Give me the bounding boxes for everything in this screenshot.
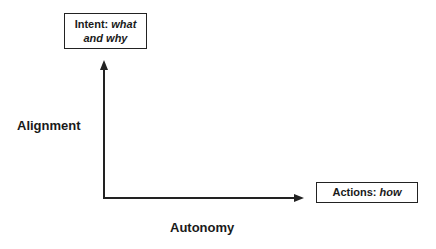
intent-prefix: Intent: [75, 18, 112, 30]
y-axis-arrow [100, 60, 108, 198]
x-axis-label: Autonomy [170, 220, 234, 235]
y-axis-label: Alignment [17, 118, 81, 133]
actions-prefix: Actions: [332, 186, 379, 198]
x-axis-arrow [103, 194, 304, 202]
actions-box: Actions: how [316, 182, 418, 203]
intent-box: Intent: what and why [64, 13, 147, 49]
actions-emphasis: how [380, 186, 402, 198]
